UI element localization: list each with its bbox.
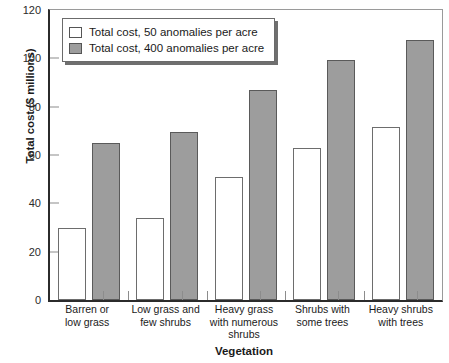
x-axis-tick-label: Barren orlow grass: [48, 303, 126, 328]
legend-item: Total cost, 400 anomalies per acre: [69, 40, 264, 56]
legend-item-label: Total cost, 50 anomalies per acre: [89, 26, 258, 38]
x-axis-tick-mark: [207, 291, 208, 300]
y-axis-tick-label: 60: [29, 149, 41, 161]
x-axis-tick-labels: Barren orlow grassLow grass andfew shrub…: [48, 303, 440, 345]
y-axis-tick-label: 20: [29, 246, 41, 258]
bar: [293, 148, 321, 300]
y-axis-tick-label: 40: [29, 197, 41, 209]
x-axis-minor-tick-mark: [260, 291, 261, 300]
bar: [92, 143, 120, 300]
x-axis-tick-mark: [285, 291, 286, 300]
plot-area: 020406080100120 Total cost, 50 anomalies…: [48, 9, 443, 302]
y-axis-tick-label: 100: [23, 52, 41, 64]
white-square-icon: [69, 27, 82, 38]
y-axis-tick-label: 120: [23, 4, 41, 16]
chart-legend: Total cost, 50 anomalies per acre Total …: [62, 18, 275, 62]
bar-group: [285, 10, 363, 300]
bar: [249, 90, 277, 300]
x-axis-tick-label: Shrubs withsome trees: [283, 303, 361, 328]
bar: [406, 40, 434, 300]
x-axis-tick-label: Heavy shrubswith trees: [362, 303, 440, 328]
x-axis-minor-tick-mark: [103, 291, 104, 300]
x-axis-title: Vegetation: [48, 345, 440, 357]
bar: [327, 60, 355, 300]
x-axis-tick-mark: [364, 291, 365, 300]
bar: [215, 177, 243, 300]
legend-item: Total cost, 50 anomalies per acre: [69, 24, 264, 40]
gray-square-icon: [69, 43, 82, 54]
x-axis-tick-label: Heavy grasswith numerousshrubs: [205, 303, 283, 341]
bar-group: [364, 10, 442, 300]
x-axis-minor-tick-mark: [417, 291, 418, 300]
x-axis-minor-tick-mark: [338, 291, 339, 300]
x-axis-minor-tick-mark: [182, 291, 183, 300]
x-axis-tick-label: Low grass andfew shrubs: [126, 303, 204, 328]
x-axis-tick-mark: [128, 291, 129, 300]
y-axis-tick-label: 80: [29, 101, 41, 113]
bar: [136, 218, 164, 300]
legend-item-label: Total cost, 400 anomalies per acre: [89, 42, 264, 54]
bar: [170, 132, 198, 300]
y-axis-tick-label: 0: [35, 294, 41, 306]
bar: [372, 127, 400, 300]
bar: [58, 228, 86, 301]
bar-chart-figure: Total cost ($ millions) 020406080100120 …: [0, 0, 449, 363]
